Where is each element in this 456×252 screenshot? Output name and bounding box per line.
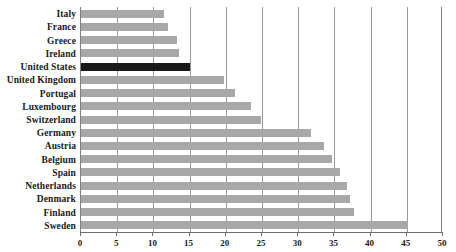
category-label-portugal: Portugal <box>40 89 76 99</box>
category-label-greece: Greece <box>47 36 76 46</box>
x-tick-mark-35 <box>333 232 334 236</box>
category-label-spain: Spain <box>52 168 76 178</box>
x-tick-mark-50 <box>442 232 443 236</box>
category-label-germany: Germany <box>37 128 76 138</box>
x-tick-label-50: 50 <box>438 238 447 248</box>
bar-netherlands <box>81 182 347 190</box>
x-tick-label-30: 30 <box>293 238 302 248</box>
bar-united-states <box>81 63 190 71</box>
x-tick-label-5: 5 <box>114 238 119 248</box>
x-tick-label-15: 15 <box>184 238 193 248</box>
x-tick-mark-20 <box>225 232 226 236</box>
category-label-belgium: Belgium <box>42 155 76 165</box>
plot-area <box>80 7 442 232</box>
bar-finland <box>81 208 354 216</box>
gridline-45 <box>407 7 408 232</box>
bar-belgium <box>81 155 332 163</box>
bar-greece <box>81 36 177 44</box>
category-axis-labels: ItalyFranceGreeceIrelandUnited StatesUni… <box>0 0 79 252</box>
x-tick-label-45: 45 <box>401 238 410 248</box>
x-tick-mark-15 <box>189 232 190 236</box>
x-tick-mark-5 <box>116 232 117 236</box>
x-tick-label-10: 10 <box>148 238 157 248</box>
bar-portugal <box>81 89 235 97</box>
bar-italy <box>81 10 164 18</box>
bar-germany <box>81 129 311 137</box>
x-tick-label-25: 25 <box>257 238 266 248</box>
bar-sweden <box>81 221 408 229</box>
x-tick-mark-40 <box>370 232 371 236</box>
category-label-italy: Italy <box>57 9 77 19</box>
x-tick-mark-30 <box>297 232 298 236</box>
category-label-sweden: Sweden <box>44 221 76 231</box>
x-tick-label-20: 20 <box>220 238 229 248</box>
bar-france <box>81 23 168 31</box>
category-label-netherlands: Netherlands <box>25 181 76 191</box>
gridline-40 <box>371 7 372 232</box>
bar-denmark <box>81 195 350 203</box>
category-label-ireland: Ireland <box>45 49 76 59</box>
x-tick-label-35: 35 <box>329 238 338 248</box>
category-label-united-kingdom: United Kingdom <box>7 75 76 85</box>
category-label-switzerland: Switzerland <box>26 115 76 125</box>
bar-luxembourg <box>81 102 251 110</box>
category-label-luxembourg: Luxembourg <box>22 102 76 112</box>
category-label-austria: Austria <box>45 141 76 151</box>
category-label-denmark: Denmark <box>37 194 76 204</box>
x-tick-mark-25 <box>261 232 262 236</box>
x-tick-mark-0 <box>80 232 81 236</box>
bar-spain <box>81 168 340 176</box>
bar-chart: ItalyFranceGreeceIrelandUnited StatesUni… <box>0 0 456 252</box>
category-label-finland: Finland <box>44 208 76 218</box>
category-label-united-states: United States <box>21 62 76 72</box>
bar-switzerland <box>81 116 261 124</box>
x-tick-mark-45 <box>406 232 407 236</box>
category-label-france: France <box>47 22 76 32</box>
bar-austria <box>81 142 324 150</box>
x-tick-mark-10 <box>152 232 153 236</box>
bar-united-kingdom <box>81 76 224 84</box>
x-tick-label-0: 0 <box>78 238 83 248</box>
bar-ireland <box>81 49 179 57</box>
x-tick-label-40: 40 <box>365 238 374 248</box>
